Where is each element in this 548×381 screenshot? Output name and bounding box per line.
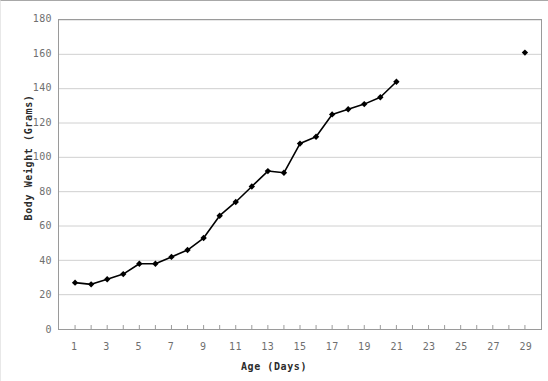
x-tick-label-21: 21	[382, 342, 412, 352]
data-point-marker	[72, 279, 78, 285]
x-tick-label-13: 13	[253, 342, 283, 352]
x-tick-label-1: 1	[59, 342, 89, 352]
data-point-marker	[152, 261, 158, 267]
x-tick-label-25: 25	[446, 342, 476, 352]
x-tick-label-27: 27	[479, 342, 509, 352]
data-point-marker	[361, 101, 367, 107]
x-tick-label-15: 15	[285, 342, 315, 352]
x-tick-label-3: 3	[91, 342, 121, 352]
x-tick-label-11: 11	[220, 342, 250, 352]
plot-area	[58, 19, 542, 330]
chart-container: Body Weight (Grams) 02040608010012014016…	[0, 0, 548, 381]
x-tick-label-19: 19	[350, 342, 380, 352]
data-point-marker	[104, 276, 110, 282]
x-tick-label-17: 17	[317, 342, 347, 352]
x-tick-label-7: 7	[156, 342, 186, 352]
data-point-marker	[297, 140, 303, 146]
x-axis-title: Age (Days)	[0, 361, 548, 372]
x-tick-label-23: 23	[414, 342, 444, 352]
x-tick-label-29: 29	[511, 342, 541, 352]
data-point-marker	[345, 106, 351, 112]
data-point-marker	[281, 170, 287, 176]
x-tick-label-5: 5	[124, 342, 154, 352]
data-point-marker	[88, 281, 94, 287]
data-point-marker	[522, 49, 528, 55]
chart-plot-svg	[59, 20, 541, 329]
x-tick-label-9: 9	[188, 342, 218, 352]
data-point-marker	[168, 254, 174, 260]
